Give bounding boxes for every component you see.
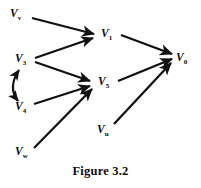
node-v-1-base: V	[101, 27, 109, 39]
node-v-u-base: V	[97, 123, 105, 135]
node-v-0-subscript: 0	[184, 58, 188, 66]
edge-v-v-to-v-1	[32, 18, 94, 34]
node-v-4-subscript: 4	[23, 107, 27, 115]
edge-v-v3-to-v-1	[35, 38, 93, 58]
node-v-u-subscript: u	[105, 130, 109, 138]
figure-caption: Figure 3.2	[0, 164, 201, 179]
node-v-3-base: V	[15, 52, 23, 64]
edge-v-vw-to-v-5	[34, 89, 92, 148]
node-v-w-base: V	[15, 145, 23, 157]
edge-v-v4-to-v-5	[34, 86, 90, 104]
node-v-0-base: V	[176, 51, 184, 63]
node-v-0: V0	[176, 52, 187, 66]
node-v-5-subscript: 5	[106, 82, 110, 90]
edge-v-v3-to-v-5	[35, 62, 90, 81]
node-v-w: Vw	[15, 146, 28, 160]
node-v-4: V4	[15, 101, 26, 115]
node-v-5-base: V	[98, 75, 106, 87]
node-v-u: Vu	[97, 124, 109, 138]
figure-container: Vv V1 V3 V0 V5 V4 Vu Vw Figure 3.2	[0, 0, 201, 188]
node-v-5: V5	[98, 76, 109, 90]
node-v-3: V3	[15, 53, 26, 67]
edge-v-1-to-v-0	[121, 35, 172, 54]
node-v-4-base: V	[15, 100, 23, 112]
node-v-1: V1	[101, 28, 112, 42]
node-v-v-base: V	[10, 7, 18, 19]
node-v-3-subscript: 3	[23, 59, 27, 67]
node-v-v: Vv	[10, 8, 21, 22]
node-v-1-subscript: 1	[109, 34, 113, 42]
node-v-w-subscript: w	[23, 152, 28, 160]
node-v-v-subscript: v	[18, 14, 22, 22]
edge-v-3-v-4-bidirectional	[13, 70, 19, 101]
